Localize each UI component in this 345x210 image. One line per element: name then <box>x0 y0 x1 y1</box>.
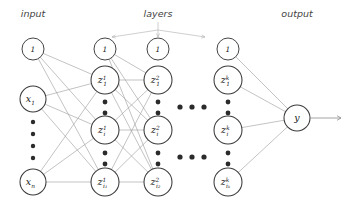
layers-pointer-arm-1 <box>112 30 158 37</box>
horizontal-ellipsis-dot-6 <box>201 154 206 159</box>
node-label-lk-bias: 1 <box>226 45 231 54</box>
node-label-l2-z1: z21 <box>150 74 160 87</box>
node-lk-zi[interactable]: zki <box>214 116 242 144</box>
node-label-l1-bias: 1 <box>103 45 108 54</box>
node-input-x1[interactable]: x1 <box>20 86 46 112</box>
horizontal-ellipsis-dot-2 <box>189 104 194 109</box>
vertical-ellipsis-dot-input-1 <box>31 120 35 124</box>
vertical-ellipsis-dot-layer1-1 <box>103 100 108 105</box>
node-label-lk-zik: zkiₖ <box>220 176 230 189</box>
vertical-ellipsis-dot-layer2-2 <box>156 111 161 116</box>
edge-lk-bias-to-output-y <box>236 57 288 109</box>
edge-lk-zi-to-output-y <box>242 120 284 127</box>
header-label-output: output <box>281 8 314 19</box>
node-label-l1-zi1: z1i₁ <box>97 176 108 189</box>
vertical-ellipsis-dot-input-3 <box>31 144 35 148</box>
vertical-ellipsis-dot-layer1-4 <box>103 162 108 167</box>
horizontal-ellipsis-dot-1 <box>177 104 182 109</box>
vertical-ellipsis-dot-input-4 <box>31 156 35 160</box>
header-label-layers: layers <box>144 8 173 19</box>
header-label-input: input <box>21 8 47 19</box>
layers-pointer-arrows <box>112 22 205 38</box>
node-lk-z1[interactable]: zk1 <box>214 66 242 94</box>
node-input-bias[interactable]: 1 <box>22 38 44 60</box>
edge-lk-zik-to-output-y <box>238 127 287 173</box>
node-l1-bias[interactable]: 1 <box>94 38 116 60</box>
node-lk-bias[interactable]: 1 <box>217 38 239 60</box>
headers-group: inputlayersoutput <box>21 8 314 19</box>
node-input-xn[interactable]: xn <box>20 169 46 195</box>
node-label-output-y: y <box>293 112 300 123</box>
vertical-ellipsis-dot-layer2-4 <box>156 162 161 167</box>
node-label-input-bias: 1 <box>31 45 36 54</box>
node-circle-input-xn <box>20 169 46 195</box>
vertical-ellipsis-dot-layer2-3 <box>156 151 161 156</box>
edge-input-bias-to-l1-z1 <box>43 53 92 74</box>
horizontal-ellipsis-dot-5 <box>189 154 194 159</box>
node-l1-zi[interactable]: z1i <box>91 116 119 144</box>
node-l2-bias[interactable]: 1 <box>147 38 169 60</box>
node-label-lk-z1: zk1 <box>220 74 230 87</box>
node-label-l1-z1: z11 <box>97 74 107 87</box>
vertical-ellipsis-dot-layerk-3 <box>226 151 231 156</box>
vertical-ellipsis-dot-layerk-1 <box>226 100 231 105</box>
layers-pointer-arm-3 <box>158 30 205 37</box>
vertical-ellipsis-dot-layerk-4 <box>226 162 231 167</box>
horizontal-ellipsis-dot-3 <box>201 104 206 109</box>
horizontal-ellipsis-dot-4 <box>177 154 182 159</box>
vertical-ellipsis-dot-layer2-1 <box>156 100 161 105</box>
vertical-ellipsis-dot-input-2 <box>31 132 35 136</box>
edge-input-bias-to-l1-zi <box>40 57 95 119</box>
node-label-l1-zi: z1i <box>97 124 107 137</box>
vertical-ellipsis-dot-layer1-3 <box>103 151 108 156</box>
vertical-ellipsis-dot-layer1-2 <box>103 111 108 116</box>
node-label-l2-bias: 1 <box>156 45 161 54</box>
edge-input-x1-to-l1-zi1 <box>42 109 96 172</box>
output-arrow <box>310 116 341 121</box>
node-l2-zi[interactable]: z2i <box>144 116 172 144</box>
edge-lk-z1-to-output-y <box>240 87 285 112</box>
node-l2-zi2[interactable]: z2i₂ <box>144 168 172 196</box>
node-label-l2-zi2: z2i₂ <box>150 176 161 189</box>
node-l1-zi1[interactable]: z1i₁ <box>91 168 119 196</box>
neural-network-diagram: 1x1xn1z11z1iz1i₁1z21z2iz2i₂1zk1zkizkiₖy … <box>0 0 345 210</box>
network-canvas: 1x1xn1z11z1iz1i₁1z21z2iz2i₂1zk1zkizkiₖy … <box>0 0 345 210</box>
node-output-y[interactable]: y <box>284 105 310 131</box>
node-l1-z1[interactable]: z11 <box>91 66 119 94</box>
node-l2-z1[interactable]: z21 <box>144 66 172 94</box>
nodes-group: 1x1xn1z11z1iz1i₁1z21z2iz2i₂1zk1zkizkiₖy <box>20 38 310 196</box>
vertical-ellipsis-dot-layerk-2 <box>226 111 231 116</box>
edge-l1-bias-to-l2-z1 <box>115 55 146 73</box>
node-lk-zik[interactable]: zkiₖ <box>214 168 242 196</box>
edge-input-xn-to-l1-z1 <box>41 91 97 171</box>
node-circle-input-x1 <box>20 86 46 112</box>
